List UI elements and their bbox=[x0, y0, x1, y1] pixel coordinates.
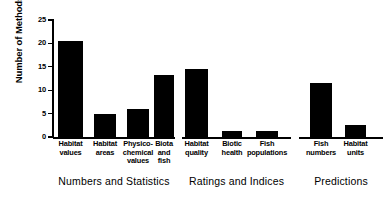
x-axis-line bbox=[299, 137, 383, 139]
y-tick-label: 10 bbox=[28, 85, 46, 94]
bar bbox=[310, 83, 332, 137]
bar-chart-figure: Number of Methods 0510152025 Habitatvalu… bbox=[0, 0, 390, 207]
bar bbox=[345, 125, 366, 137]
category-label: Fishpopulations bbox=[241, 140, 293, 157]
bar bbox=[185, 69, 208, 137]
y-tick-mark bbox=[48, 19, 52, 20]
group-label: Predictions bbox=[261, 175, 390, 187]
y-tick-label: 20 bbox=[28, 38, 46, 47]
y-tick-mark bbox=[48, 136, 52, 137]
bar bbox=[94, 114, 116, 137]
y-tick-label: 5 bbox=[28, 109, 46, 118]
y-tick-label: 0 bbox=[28, 132, 46, 141]
bar bbox=[127, 109, 149, 137]
y-tick-mark bbox=[48, 66, 52, 67]
y-tick-label: 15 bbox=[28, 62, 46, 71]
y-axis-title: Number of Methods bbox=[13, 0, 24, 100]
y-tick-mark bbox=[48, 113, 52, 114]
bar bbox=[222, 131, 242, 137]
category-label-line: populations bbox=[241, 149, 293, 158]
y-axis-line bbox=[52, 19, 54, 138]
y-tick-mark bbox=[48, 43, 52, 44]
category-label-line: fish bbox=[138, 157, 190, 166]
y-tick-mark bbox=[48, 90, 52, 91]
y-tick-label: 25 bbox=[28, 15, 46, 24]
bar bbox=[154, 75, 174, 137]
category-label-line: units bbox=[330, 149, 382, 158]
bar bbox=[256, 131, 278, 137]
category-label: Habitatunits bbox=[330, 140, 382, 157]
bar bbox=[58, 41, 83, 137]
